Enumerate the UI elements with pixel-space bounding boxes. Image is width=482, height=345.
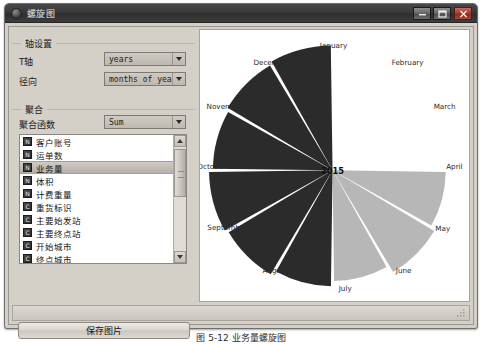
scroll-up-button[interactable] bbox=[174, 135, 186, 147]
close-button[interactable] bbox=[454, 7, 472, 20]
maximize-button[interactable] bbox=[433, 7, 451, 20]
radial-axis-select[interactable]: months of year bbox=[104, 72, 186, 86]
spiral-pie-chart: JanuaryFebruaryMarchAprilMayJuneJulyAugu… bbox=[200, 30, 469, 301]
chart-axis-label: June bbox=[395, 266, 412, 275]
field-type-icon: N bbox=[23, 189, 32, 198]
chart-axis-label: September bbox=[207, 223, 247, 232]
title-bar: 螺旋图 bbox=[5, 4, 477, 23]
chart-axis-label: November bbox=[207, 102, 245, 111]
minimize-icon bbox=[418, 10, 427, 17]
chevron-down-icon bbox=[172, 73, 185, 85]
field-type-icon: C bbox=[23, 228, 32, 237]
caret-up-icon bbox=[177, 139, 183, 143]
measure-field-list-items: N客户账号N运单数N业务量N体积N计费重量C重货标识C主要始发站C主要终点站C开… bbox=[20, 135, 173, 264]
chart-axis-label: February bbox=[392, 58, 425, 67]
chart-axis-label: May bbox=[435, 224, 451, 233]
aggregation-title: 聚合 bbox=[21, 103, 47, 116]
list-item-label: 重货标识 bbox=[36, 201, 72, 213]
axis-settings-group: 轴设置 T轴 years 径向 months of year bbox=[12, 43, 195, 95]
field-type-icon: N bbox=[23, 176, 32, 185]
chart-axis-label: March bbox=[434, 102, 456, 111]
aggregation-function-label: 聚合函数 bbox=[19, 118, 55, 131]
field-type-icon: C bbox=[23, 215, 32, 224]
list-item-label: 业务量 bbox=[36, 162, 63, 174]
list-item-label: 体积 bbox=[36, 175, 54, 187]
resize-grip-icon[interactable] bbox=[457, 309, 466, 318]
list-scrollbar[interactable] bbox=[173, 135, 186, 263]
field-type-icon: N bbox=[23, 163, 32, 172]
list-item-label: 主要终点站 bbox=[36, 227, 81, 239]
aggregation-group: 聚合 聚合函数 Sum N客户账号N运单数N业务量N体积N计费重量C重货标识C主… bbox=[12, 109, 195, 321]
aggregation-function-value: Sum bbox=[105, 118, 172, 127]
radial-axis-label: 径向 bbox=[19, 75, 37, 88]
field-type-icon: C bbox=[23, 241, 32, 250]
list-item[interactable]: C终点城市 bbox=[20, 252, 173, 264]
field-type-icon: N bbox=[23, 150, 32, 159]
list-item[interactable]: N业务量 bbox=[20, 161, 173, 174]
list-item[interactable]: C开始城市 bbox=[20, 239, 173, 252]
control-panel: 轴设置 T轴 years 径向 months of year 聚合 聚合函数 S… bbox=[12, 29, 195, 321]
chevron-down-icon bbox=[172, 53, 185, 65]
chevron-down-icon bbox=[172, 116, 185, 128]
close-icon bbox=[459, 10, 468, 18]
measure-field-list[interactable]: N客户账号N运单数N业务量N体积N计费重量C重货标识C主要始发站C主要终点站C开… bbox=[19, 134, 187, 264]
caret-down-icon bbox=[177, 255, 183, 259]
t-axis-value: years bbox=[105, 55, 172, 64]
chart-panel[interactable]: JanuaryFebruaryMarchAprilMayJuneJulyAugu… bbox=[199, 29, 470, 302]
chart-axis-label: December bbox=[253, 58, 290, 67]
list-item-label: 主要始发站 bbox=[36, 214, 81, 226]
list-item[interactable]: N计费重量 bbox=[20, 187, 173, 200]
t-axis-label: T轴 bbox=[19, 55, 34, 68]
list-item[interactable]: N客户账号 bbox=[20, 135, 173, 148]
chart-axis-label: April bbox=[446, 162, 462, 171]
field-type-icon: N bbox=[23, 137, 32, 146]
app-icon bbox=[11, 8, 22, 19]
list-item[interactable]: N体积 bbox=[20, 174, 173, 187]
list-item-label: 计费重量 bbox=[36, 188, 72, 200]
scroll-down-button[interactable] bbox=[174, 251, 186, 263]
list-item-label: 开始城市 bbox=[36, 240, 72, 252]
aggregation-function-select[interactable]: Sum bbox=[104, 115, 186, 129]
chart-axis-label: August bbox=[262, 266, 287, 275]
chart-axis-label: January bbox=[319, 41, 348, 50]
list-item-label: 客户账号 bbox=[36, 136, 72, 148]
list-item[interactable]: N运单数 bbox=[20, 148, 173, 161]
list-item[interactable]: C重货标识 bbox=[20, 200, 173, 213]
list-item[interactable]: C主要始发站 bbox=[20, 213, 173, 226]
list-item-label: 运单数 bbox=[36, 149, 63, 161]
scrollbar-thumb[interactable] bbox=[174, 149, 186, 197]
list-item-label: 终点城市 bbox=[36, 253, 72, 265]
window-body: 轴设置 T轴 years 径向 months of year 聚合 聚合函数 S… bbox=[8, 26, 474, 325]
t-axis-select[interactable]: years bbox=[104, 52, 186, 66]
status-strip bbox=[12, 305, 470, 321]
field-type-icon: C bbox=[23, 202, 32, 211]
chart-axis-label: October bbox=[200, 162, 226, 171]
window-title: 螺旋图 bbox=[27, 7, 55, 20]
list-item[interactable]: C主要终点站 bbox=[20, 226, 173, 239]
chart-center-label: 2015 bbox=[321, 166, 344, 176]
chart-axis-label: July bbox=[338, 284, 353, 293]
radial-axis-value: months of year bbox=[105, 75, 172, 84]
minimize-button[interactable] bbox=[413, 7, 431, 20]
maximize-icon bbox=[438, 10, 447, 18]
field-type-icon: C bbox=[23, 254, 32, 263]
axis-settings-title: 轴设置 bbox=[21, 37, 56, 50]
app-window: 螺旋图 轴设置 T轴 years bbox=[4, 3, 478, 329]
figure-caption: 图 5-12 业务量螺旋图 bbox=[0, 331, 482, 344]
